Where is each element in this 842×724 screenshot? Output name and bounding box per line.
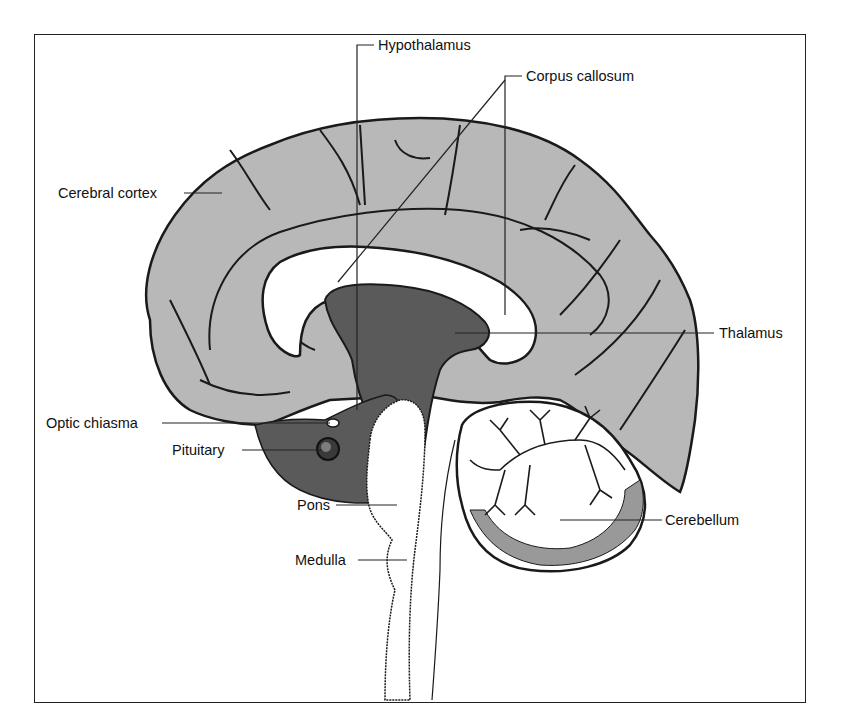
label-optic-chiasma: Optic chiasma xyxy=(46,416,138,431)
label-cerebellum: Cerebellum xyxy=(665,513,739,528)
label-medulla: Medulla xyxy=(295,553,346,568)
label-hypothalamus: Hypothalamus xyxy=(378,38,471,53)
label-corpus-callosum: Corpus callosum xyxy=(526,69,634,84)
label-pons: Pons xyxy=(297,498,330,513)
label-cerebral-cortex: Cerebral cortex xyxy=(58,186,157,201)
label-pituitary: Pituitary xyxy=(172,443,224,458)
brainstem-shape xyxy=(367,400,425,700)
label-thalamus: Thalamus xyxy=(719,326,783,341)
brain-diagram xyxy=(0,0,842,724)
